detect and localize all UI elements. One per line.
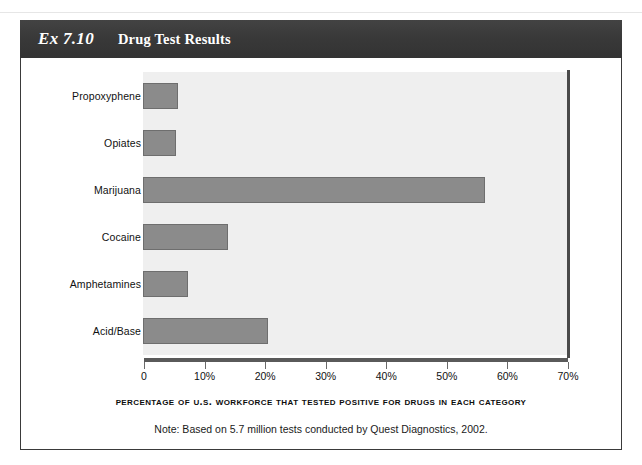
x-axis-title: Percentage of U.S. Workforce that Tested…	[21, 395, 621, 407]
x-axis-line	[144, 358, 568, 362]
bar-marijuana	[143, 177, 485, 203]
x-tick-label: 60%	[497, 370, 518, 382]
category-label: Marijuana	[21, 184, 141, 196]
scan-artifact	[0, 12, 642, 13]
exhibit-card: Ex 7.10 Drug Test Results PropoxypheneOp…	[20, 20, 622, 450]
x-tick	[326, 362, 327, 369]
x-tick-label: 30%	[315, 370, 336, 382]
x-tick	[568, 362, 569, 369]
bar-opiates	[143, 130, 176, 156]
category-label: Acid/Base	[21, 325, 141, 337]
bar-acid-base	[143, 318, 268, 344]
bar-propoxyphene	[143, 83, 178, 109]
x-tick	[205, 362, 206, 369]
bar-cocaine	[143, 224, 228, 250]
x-tick-label: 20%	[255, 370, 276, 382]
exhibit-header-bar: Ex 7.10 Drug Test Results	[20, 20, 622, 58]
category-label: Cocaine	[21, 231, 141, 243]
x-tick	[386, 362, 387, 369]
x-tick	[265, 362, 266, 369]
x-tick-label: 40%	[376, 370, 397, 382]
exhibit-number-label: Ex 7.10	[38, 29, 94, 49]
plot-area	[143, 72, 570, 355]
x-tick-label: 70%	[557, 370, 578, 382]
category-label: Opiates	[21, 137, 141, 149]
x-tick	[144, 362, 145, 369]
bar-chart: PropoxypheneOpiatesMarijuanaCocaineAmphe…	[21, 59, 621, 449]
category-axis-labels: PropoxypheneOpiatesMarijuanaCocaineAmphe…	[21, 72, 141, 355]
category-label: Propoxyphene	[21, 90, 141, 102]
x-tick-label: 50%	[436, 370, 457, 382]
x-tick	[507, 362, 508, 369]
chart-note: Note: Based on 5.7 million tests conduct…	[21, 423, 621, 435]
x-tick-label: 10%	[194, 370, 215, 382]
plot-right-border	[567, 70, 570, 358]
category-label: Amphetamines	[21, 278, 141, 290]
x-tick-label: 0	[141, 370, 147, 382]
x-tick	[447, 362, 448, 369]
bar-amphetamines	[143, 271, 188, 297]
exhibit-title: Drug Test Results	[118, 31, 231, 48]
